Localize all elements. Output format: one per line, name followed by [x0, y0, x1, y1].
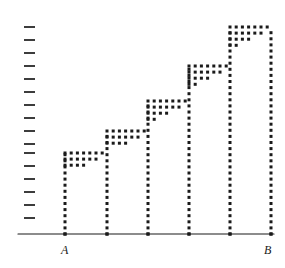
- bar-3-top-thickness-r4: [147, 118, 150, 121]
- bar-5-dot-top: [253, 26, 256, 29]
- bar-1-top-thickness-r2: [76, 158, 79, 161]
- bar-5-dot-right: [270, 86, 273, 89]
- bar-5-dot-left: [229, 74, 232, 77]
- bar-2-top-thickness-r2: [118, 136, 121, 139]
- bar-3-top-thickness-r3: [165, 112, 168, 115]
- bar-5-dot-left: [229, 196, 232, 199]
- bar-4-dot-left: [188, 220, 191, 223]
- bar-5-top-thickness-r4: [229, 44, 232, 47]
- bar-2-top-thickness-r2: [130, 136, 133, 139]
- bar-1-top-thickness-r2: [64, 158, 67, 161]
- bar-4-dot-left: [188, 208, 191, 211]
- bar-5-dot-right: [270, 74, 273, 77]
- bar-5-dot-top: [266, 26, 269, 29]
- bar-2-dot-left: [106, 153, 109, 156]
- bar-2-top-thickness-r3: [112, 142, 115, 145]
- bar-2-top-thickness-r2: [112, 136, 115, 139]
- bar-3-dot-left: [147, 233, 150, 236]
- bar-4-dot-left: [188, 147, 191, 150]
- bar-3-top-thickness-r2: [165, 106, 168, 109]
- bar-2-dot-top: [124, 130, 127, 133]
- bar-3-top-thickness-r4: [153, 118, 156, 121]
- bar-2-dot-left: [106, 208, 109, 211]
- bar-4-top-thickness-r3: [206, 77, 209, 80]
- bar-3-dot-left: [147, 159, 150, 162]
- bar-5-top-thickness-r3: [247, 38, 250, 41]
- bar-1-dot-left: [64, 208, 67, 211]
- bar-1-dot-top: [76, 152, 79, 155]
- bar-5-dot-right: [270, 184, 273, 187]
- bar-1-dot-top: [82, 152, 85, 155]
- bar-2-dot-left: [106, 214, 109, 217]
- bar-2-dot-left: [106, 202, 109, 205]
- bar-5-dot-right: [270, 135, 273, 138]
- bar-5-dot-top: [247, 26, 250, 29]
- bar-4-top-thickness-r2: [219, 71, 222, 74]
- bar-5-top-thickness-r2: [247, 32, 250, 35]
- bar-5-dot-top: [235, 26, 238, 29]
- bar-2-dot-left: [106, 178, 109, 181]
- bar-3-dot-top: [184, 100, 187, 103]
- bar-5-dot-right: [270, 117, 273, 120]
- bar-1-dot-top: [70, 152, 73, 155]
- bar-2-dot-left: [106, 184, 109, 187]
- bar-1-top-thickness-r3: [70, 164, 73, 167]
- bar-5-top-thickness-r2: [260, 32, 263, 35]
- bar-1-dot-left: [64, 233, 67, 236]
- bar-5-dot-left: [229, 98, 232, 101]
- bar-outline-group: [64, 26, 273, 236]
- bar-2-dot-left: [106, 190, 109, 193]
- bar-5-dot-right: [270, 31, 273, 34]
- bar-4-dot-left: [188, 98, 191, 101]
- bar-4-dot-left: [188, 165, 191, 168]
- bar-5-top-thickness-r3: [235, 38, 238, 41]
- bar-5-dot-left: [229, 129, 232, 132]
- chart-canvas: [0, 0, 285, 268]
- bar-3-dot-left: [147, 135, 150, 138]
- bar-5-dot-right: [270, 147, 273, 150]
- bar-4-dot-top: [225, 65, 228, 68]
- bar-4-top-thickness-r4: [194, 83, 197, 86]
- bar-5-dot-left: [229, 56, 232, 59]
- bar-3-dot-top: [165, 100, 168, 103]
- bar-5-dot-right: [270, 220, 273, 223]
- bar-5-dot-left: [229, 117, 232, 120]
- bar-5-dot-right: [270, 104, 273, 107]
- bar-4-dot-top: [219, 65, 222, 68]
- bar-5-dot-left: [229, 62, 232, 65]
- bar-4-dot-left: [188, 159, 191, 162]
- bar-5-dot-right: [270, 92, 273, 95]
- bar-5-dot-right: [270, 56, 273, 59]
- bar-4-dot-left: [188, 153, 191, 156]
- bar-5-dot-right: [270, 178, 273, 181]
- bar-1-dot-left: [64, 196, 67, 199]
- bar-1-top-thickness-r2: [88, 158, 91, 161]
- dotted-step-bar-chart: A B: [0, 0, 285, 268]
- bar-5-dot-left: [229, 111, 232, 114]
- bar-4-dot-left: [188, 178, 191, 181]
- bar-5-dot-right: [270, 233, 273, 236]
- bar-4-dot-left: [188, 68, 191, 71]
- bar-3-dot-left: [147, 184, 150, 187]
- bar-4-top-thickness-r3: [188, 77, 191, 80]
- bar-4-dot-left: [188, 196, 191, 199]
- bar-5-dot-right: [270, 202, 273, 205]
- bar-5-dot-left: [229, 226, 232, 229]
- bar-2-dot-left: [106, 226, 109, 229]
- bar-5-dot-right: [270, 123, 273, 126]
- bar-2-dot-top: [137, 130, 140, 133]
- bar-5-dot-left: [229, 190, 232, 193]
- bar-3-dot-top: [178, 100, 181, 103]
- bar-5-dot-right: [270, 68, 273, 71]
- bar-5-dot-left: [229, 50, 232, 53]
- x-axis-label-a: A: [61, 243, 69, 258]
- bar-2-dot-left: [106, 233, 109, 236]
- bar-1-top-thickness-r2: [70, 158, 73, 161]
- bar-5-dot-right: [270, 159, 273, 162]
- bar-5-dot-top: [229, 26, 232, 29]
- bar-1-dot-left: [64, 220, 67, 223]
- bar-3-dot-left: [147, 226, 150, 229]
- bar-5-dot-left: [229, 165, 232, 168]
- bar-4-dot-top: [188, 65, 191, 68]
- bar-5-dot-left: [229, 135, 232, 138]
